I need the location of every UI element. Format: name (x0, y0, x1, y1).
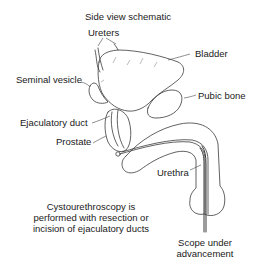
scope-label-line-2: advancement (168, 248, 242, 259)
label-prostate: Prostate (56, 136, 91, 147)
label-urethra: Urethra (157, 167, 189, 178)
diagram-title: Side view schematic (85, 11, 171, 22)
scope-label-line-1: Scope under (168, 237, 242, 248)
label-pubic-bone: Pubic bone (198, 90, 246, 101)
scope-line (200, 148, 204, 232)
seminal-vesicle-shape (89, 83, 108, 103)
ureter-right (98, 48, 103, 70)
pubic-bone-shape (147, 90, 182, 118)
label-ureters: Ureters (88, 27, 119, 38)
caption-line-3: incision of ejaculatory ducts (26, 223, 156, 234)
label-bladder: Bladder (195, 48, 228, 59)
label-seminal-vesicle: Seminal vesicle (16, 74, 82, 85)
caption-line-2: performed with resection or (26, 212, 156, 223)
caption-line-1: Cystourethroscopy is (26, 201, 156, 212)
caption: Cystourethroscopy is performed with rese… (26, 201, 156, 234)
label-ejaculatory-duct: Ejaculatory duct (20, 117, 88, 128)
scope-label: Scope under advancement (168, 237, 242, 259)
